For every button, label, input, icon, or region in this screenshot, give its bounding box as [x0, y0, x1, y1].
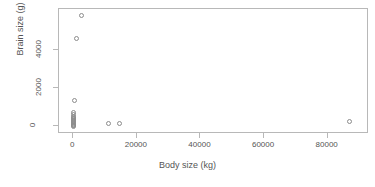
x-tick [327, 133, 328, 138]
y-tick-label: 2000 [34, 78, 43, 96]
data-point [72, 98, 77, 103]
y-tick [53, 87, 58, 88]
x-tick-label: 80000 [316, 140, 338, 149]
x-tick [136, 133, 137, 138]
x-tick [263, 133, 264, 138]
data-point [79, 13, 84, 18]
x-tick [72, 133, 73, 138]
data-point [117, 121, 122, 126]
plot-frame [58, 8, 368, 133]
x-tick-label: 60000 [252, 140, 274, 149]
data-point [71, 124, 76, 129]
y-tick-label: 0 [28, 123, 37, 127]
x-tick-label: 0 [70, 140, 74, 149]
data-point [74, 36, 79, 41]
x-axis-label: Body size (kg) [0, 160, 375, 170]
y-tick [53, 125, 58, 126]
x-tick-label: 20000 [125, 140, 147, 149]
y-axis-label: Brain size (g) [15, 0, 25, 77]
data-point [106, 121, 111, 126]
scatter-plot-figure: 020000400006000080000 020004000 Body siz… [0, 0, 375, 187]
plot-area [59, 9, 367, 132]
data-point [347, 119, 352, 124]
y-tick-label: 4000 [34, 40, 43, 58]
x-tick [199, 133, 200, 138]
x-tick-label: 40000 [188, 140, 210, 149]
y-tick [53, 49, 58, 50]
